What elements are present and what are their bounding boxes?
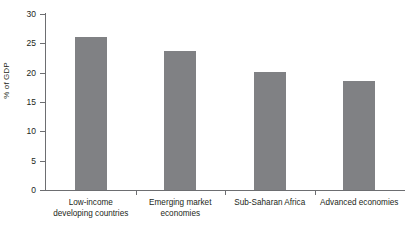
x-axis-tick [136, 191, 137, 195]
bar-chart: % of GDP 051015202530 Low-incomedevelopi… [0, 0, 410, 236]
bar [343, 81, 375, 190]
x-axis-tick [225, 191, 226, 195]
y-axis-tick [40, 43, 45, 44]
y-axis-tick-label: 30 [14, 10, 36, 18]
y-axis-tick-label: 10 [14, 127, 36, 135]
y-axis-title: % of GDP [2, 51, 11, 111]
y-axis-tick-label: 0 [14, 186, 36, 194]
y-axis-tick [40, 161, 45, 162]
x-axis-category-label: Advanced economies [315, 198, 405, 209]
x-axis-label-line: Emerging market [136, 198, 226, 209]
x-axis-label-line: Sub-Saharan Africa [225, 198, 315, 209]
x-axis-label-line: Low-income [46, 198, 136, 209]
x-axis-label-line: economies [136, 209, 226, 220]
y-axis-tick [40, 131, 45, 132]
y-axis-tick [40, 102, 45, 103]
bar [75, 37, 107, 190]
x-axis-category-label: Low-incomedeveloping countries [46, 198, 136, 219]
x-axis-label-line: developing countries [46, 209, 136, 220]
bar [254, 72, 286, 191]
y-axis-tick [40, 73, 45, 74]
y-axis-tick-label: 25 [14, 39, 36, 47]
x-axis-category-label: Sub-Saharan Africa [225, 198, 315, 209]
y-axis-tick-label: 5 [14, 157, 36, 165]
y-axis-tick [40, 190, 45, 191]
x-axis-tick [315, 191, 316, 195]
y-axis-tick [40, 14, 45, 15]
y-axis-tick-label: 15 [14, 98, 36, 106]
y-axis-tick-label: 20 [14, 69, 36, 77]
plot-area [46, 14, 404, 190]
bar [164, 51, 196, 190]
x-axis-label-line: Advanced economies [315, 198, 405, 209]
x-axis-category-label: Emerging marketeconomies [136, 198, 226, 219]
